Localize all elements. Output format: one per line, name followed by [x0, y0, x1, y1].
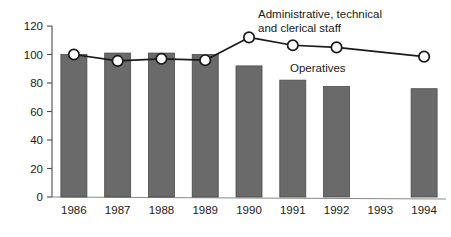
x-tick-label-1989: 1989 — [192, 204, 218, 216]
x-tick-label-1987: 1987 — [105, 204, 131, 216]
bar-1992 — [324, 87, 350, 197]
line-segment-1990-to-1991 — [249, 37, 293, 45]
line-series-admin-markers — [69, 32, 430, 66]
bar-1987 — [105, 53, 131, 197]
admin-series-label-line-2: and clerical staff — [258, 22, 342, 34]
chart-container: 020406080100120 198619871988198919901991… — [0, 0, 451, 237]
bar-1986 — [61, 55, 87, 198]
line-marker-1988 — [156, 54, 166, 64]
y-tick-label-60: 60 — [30, 106, 43, 118]
y-tick-label-80: 80 — [30, 77, 43, 89]
y-tick-label-40: 40 — [30, 134, 43, 146]
operatives-series-label-line-1: Operatives — [290, 62, 346, 74]
bar-1989 — [192, 55, 218, 198]
line-marker-1986 — [69, 49, 79, 59]
chart-annotations: Administrative, technicaland clerical st… — [258, 8, 382, 74]
y-axis-tick-labels: 020406080100120 — [24, 20, 43, 203]
bar-1988 — [148, 53, 174, 197]
y-axis-ticks — [47, 26, 52, 197]
x-tick-label-1994: 1994 — [411, 204, 437, 216]
line-marker-1991 — [288, 40, 298, 50]
bar-1994 — [411, 89, 437, 197]
line-marker-1989 — [200, 55, 210, 65]
line-marker-1987 — [112, 56, 122, 66]
bar-1990 — [236, 66, 262, 197]
x-tick-label-1990: 1990 — [236, 204, 262, 216]
bar-series-operatives — [61, 53, 437, 197]
x-tick-label-1986: 1986 — [61, 204, 87, 216]
line-marker-1990 — [244, 32, 254, 42]
operatives-series-label: Operatives — [290, 62, 346, 74]
y-tick-label-20: 20 — [30, 163, 43, 175]
line-segment-1992-to-1994 — [337, 47, 425, 56]
admin-series-label-line-1: Administrative, technical — [258, 8, 382, 20]
y-tick-label-100: 100 — [24, 49, 43, 61]
line-segment-1989-to-1990 — [205, 37, 249, 60]
x-tick-label-1988: 1988 — [149, 204, 175, 216]
x-tick-label-1991: 1991 — [280, 204, 306, 216]
bar-1991 — [280, 80, 306, 197]
y-tick-label-0: 0 — [37, 191, 43, 203]
y-tick-label-120: 120 — [24, 20, 43, 32]
x-tick-label-1993: 1993 — [368, 204, 394, 216]
line-marker-1994 — [419, 51, 429, 61]
chart-canvas: 020406080100120 198619871988198919901991… — [0, 0, 451, 237]
x-axis-tick-labels: 198619871988198919901991199219931994 — [61, 204, 437, 216]
line-segment-1991-to-1992 — [293, 45, 337, 47]
x-tick-label-1992: 1992 — [324, 204, 350, 216]
line-marker-1992 — [331, 42, 341, 52]
admin-series-label: Administrative, technicaland clerical st… — [258, 8, 382, 34]
